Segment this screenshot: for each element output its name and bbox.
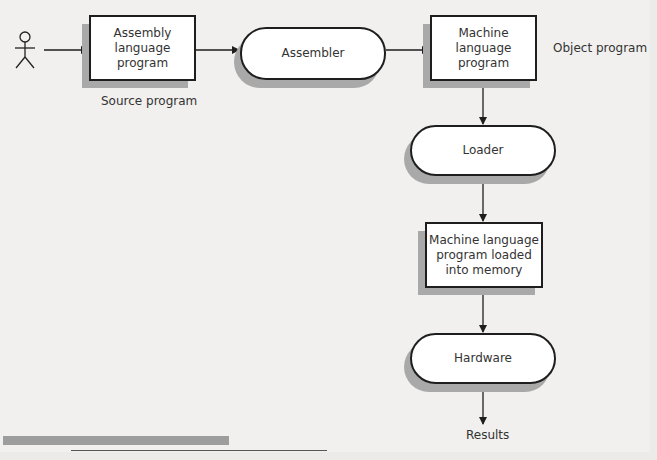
node-label: Machine language program loaded into mem… [428, 233, 540, 278]
node-loader: Loader [410, 125, 556, 176]
node-label: Loader [462, 143, 503, 158]
node-assembler: Assembler [240, 27, 386, 80]
decorative-gray-bar [3, 436, 229, 445]
node-label: Assembly language program [103, 26, 183, 71]
results-label: Results [466, 428, 509, 442]
diagram-page: Assembly language program Assembler Mach… [0, 0, 650, 452]
node-label: Hardware [454, 351, 512, 366]
horizontal-rule [71, 450, 327, 451]
node-assembly-language-program: Assembly language program [89, 15, 196, 81]
node-label: Machine language program [446, 26, 522, 71]
object-program-label: Object program [553, 41, 647, 55]
stick-figure-icon [15, 32, 35, 68]
node-hardware: Hardware [410, 333, 556, 384]
node-machine-language-program: Machine language program [430, 15, 537, 81]
node-label: Assembler [281, 46, 344, 61]
node-program-loaded-into-memory: Machine language program loaded into mem… [425, 222, 543, 288]
source-program-label: Source program [101, 94, 197, 108]
